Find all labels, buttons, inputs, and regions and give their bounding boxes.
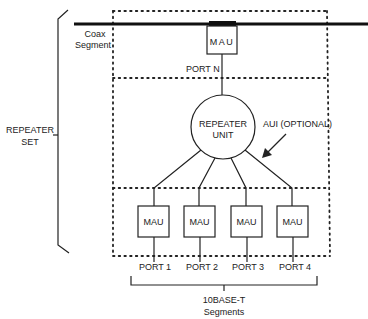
repeater-set-label-line2: SET	[21, 137, 39, 147]
port-mau-1: MAU PORT 1	[138, 206, 171, 272]
repeater-set-diagram: REPEATER SET Coax Segment MAU PORT N REP…	[0, 0, 368, 319]
coax-mau-label: MAU	[210, 37, 235, 47]
repeater-unit-label-line2: UNIT	[213, 130, 234, 140]
port-mau-3-label: MAU	[237, 217, 257, 227]
port-mau-2-label: MAU	[190, 217, 210, 227]
coax-label-line2: Segment	[75, 40, 112, 50]
port-2-label: PORT 2	[186, 262, 218, 272]
port-mau-4-label: MAU	[283, 217, 303, 227]
segments-label-line1: 10BASE-T	[203, 295, 246, 305]
port-n-label: PORT N	[186, 64, 220, 74]
segments-label-line2: Segments	[204, 307, 245, 317]
port-4-label: PORT 4	[279, 262, 311, 272]
aui-optional-label: AUI (OPTIONAL)	[263, 119, 332, 129]
repeater-set-label-line1: REPEATER	[6, 125, 54, 135]
port-mau-2: MAU PORT 2	[184, 206, 218, 272]
coax-label-line1: Coax	[84, 29, 106, 39]
port-mau-3: MAU PORT 3	[231, 206, 264, 272]
port-mau-1-label: MAU	[144, 217, 164, 227]
repeater-set-bracket	[53, 10, 69, 253]
port-1-label: PORT 1	[139, 262, 171, 272]
port-3-label: PORT 3	[232, 262, 264, 272]
segments-bracket	[131, 276, 317, 291]
aui-arrow-icon	[262, 134, 286, 158]
port-mau-4: MAU PORT 4	[277, 206, 311, 272]
repeater-unit-label-line1: REPEATER	[199, 119, 247, 129]
